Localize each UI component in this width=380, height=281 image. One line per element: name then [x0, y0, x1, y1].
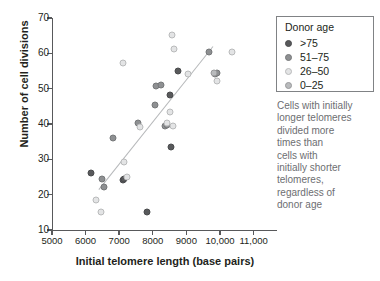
x-tick-label: 5000: [41, 236, 62, 246]
caption-line: Cells with initially: [277, 100, 377, 112]
data-point: [87, 169, 94, 176]
data-point: [167, 108, 174, 115]
data-point: [211, 70, 218, 77]
legend-label: 0–25: [300, 80, 323, 91]
legend-entry[interactable]: 26–50: [285, 64, 329, 78]
caption-line: regardless of: [277, 187, 377, 199]
data-point: [166, 92, 173, 99]
data-point: [110, 134, 117, 141]
legend-label: >75: [300, 38, 318, 49]
trend-line: [98, 47, 213, 191]
y-tick-label: 50: [23, 84, 49, 94]
data-point: [157, 82, 164, 89]
x-tick-label: 6000: [75, 236, 96, 246]
caption-line: cells with: [277, 150, 377, 162]
data-point: [97, 208, 104, 215]
x-tick-label: 11,000: [239, 236, 267, 246]
legend-title: Donor age: [285, 21, 334, 33]
data-point: [99, 176, 106, 183]
x-tick-label: 7000: [109, 236, 130, 246]
data-point: [228, 49, 235, 56]
scatter-plot-figure: Number of cell divisions Initial telomer…: [0, 0, 380, 281]
legend-label: 51–75: [300, 52, 329, 63]
legend-marker-icon: [285, 40, 292, 47]
x-axis-title: Initial telomere length (base pairs): [40, 255, 290, 267]
annotation-caption: Cells with initiallylonger telomeresdivi…: [277, 100, 377, 212]
data-point: [120, 60, 127, 67]
data-point: [213, 78, 220, 85]
data-point: [121, 158, 128, 165]
y-tick-label: 10: [23, 225, 49, 235]
legend-entry[interactable]: 0–25: [285, 78, 323, 92]
caption-line: initially shorter: [277, 162, 377, 174]
data-point: [137, 124, 144, 131]
legend-entry[interactable]: 51–75: [285, 50, 329, 64]
data-point: [185, 70, 192, 77]
y-tick-label: 70: [23, 13, 49, 23]
legend-label: 26–50: [300, 66, 329, 77]
legend-marker-icon: [285, 82, 292, 89]
caption-line: telomeres,: [277, 174, 377, 186]
data-point: [92, 196, 99, 203]
legend: Donor age >7551–7526–500–25: [276, 16, 374, 92]
caption-line: longer telomeres: [277, 112, 377, 124]
y-tick-label: 40: [23, 119, 49, 129]
legend-entry[interactable]: >75: [285, 36, 318, 50]
data-point: [168, 144, 175, 151]
caption-line: divided more: [277, 125, 377, 137]
data-point: [169, 123, 176, 130]
data-point: [123, 174, 130, 181]
x-tick-label: 10,000: [205, 236, 234, 246]
data-point: [152, 102, 159, 109]
y-tick-label: 20: [23, 190, 49, 200]
caption-line: times than: [277, 137, 377, 149]
data-point: [168, 31, 175, 38]
data-point: [206, 49, 213, 56]
x-tick-label: 8000: [142, 236, 163, 246]
legend-marker-icon: [285, 54, 292, 61]
data-point: [170, 46, 177, 53]
data-point: [101, 183, 108, 190]
caption-line: donor age: [277, 199, 377, 211]
legend-marker-icon: [285, 68, 292, 75]
data-point: [144, 208, 151, 215]
y-tick-label: 30: [23, 154, 49, 164]
data-point: [174, 67, 181, 74]
plot-area: [52, 18, 267, 230]
x-tick-label: 9000: [176, 236, 197, 246]
y-tick-label: 60: [23, 48, 49, 58]
